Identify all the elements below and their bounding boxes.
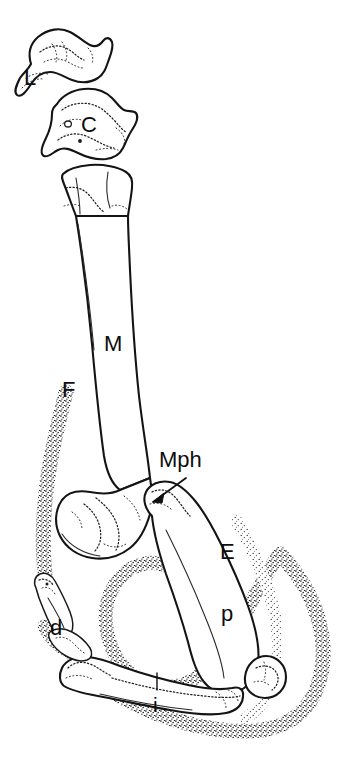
bone-p-distal-epiphysis <box>245 656 286 698</box>
bone-M-distal-condyle <box>56 478 151 559</box>
label-E: E <box>220 541 235 563</box>
label-M: M <box>104 333 122 355</box>
bone-M <box>56 165 151 559</box>
label-Mph: Mph <box>159 449 202 471</box>
figure-drawing-canvas <box>0 0 339 781</box>
label-p: p <box>221 603 233 625</box>
label-F: F <box>62 379 75 401</box>
anatomical-figure: L C M F Mph E p d i <box>0 0 339 781</box>
label-C: C <box>81 114 97 136</box>
label-d: d <box>50 617 62 639</box>
bone-C-nutrient-pore <box>78 139 82 143</box>
bone-M-proximal-metaphysis <box>62 165 132 216</box>
label-i: i <box>153 694 158 715</box>
bone-d-tip-pore <box>46 583 49 586</box>
bone-p-outline <box>144 481 258 693</box>
stipple-band-lower-run <box>106 564 176 679</box>
label-L: L <box>24 67 36 89</box>
